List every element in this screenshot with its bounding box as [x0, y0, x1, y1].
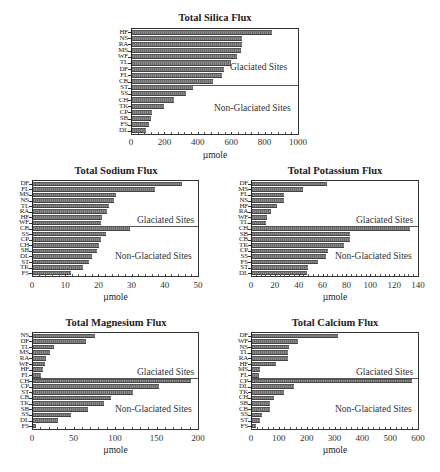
- bar-cp: [252, 379, 412, 384]
- x-tick-label: 20: [270, 280, 279, 290]
- chart-title: Total Potassium Flux: [288, 165, 383, 176]
- x-tick: [245, 132, 246, 134]
- x-tick-label: 1000: [289, 137, 307, 147]
- bar-hf: [132, 30, 272, 35]
- chart-title: Total Magnesium Flux: [65, 317, 166, 328]
- bar-fl: [132, 73, 222, 78]
- y-tick: [29, 341, 32, 342]
- y-tick: [29, 217, 32, 218]
- x-tick: [181, 427, 182, 429]
- x-tick: [262, 427, 263, 429]
- bar-tk: [33, 401, 104, 406]
- y-tick: [248, 341, 251, 342]
- bar-ms: [33, 193, 116, 198]
- y-tick: [128, 106, 131, 107]
- x-axis-label: µmole: [103, 445, 127, 455]
- y-tick: [128, 57, 131, 58]
- bar-fl: [33, 373, 41, 378]
- bar-ss: [132, 91, 186, 96]
- x-tick: [362, 427, 363, 430]
- x-tick-label: 80: [342, 280, 351, 290]
- bar-cp: [33, 384, 159, 389]
- bar-ch: [132, 97, 174, 102]
- x-tick: [59, 274, 60, 276]
- x-tick: [407, 427, 408, 429]
- x-tick: [408, 274, 409, 276]
- y-tick: [29, 347, 32, 348]
- x-tick-label: 0: [129, 137, 134, 147]
- bar-ra: [33, 356, 46, 361]
- y-tick: [29, 364, 32, 365]
- x-tick-label: 0: [249, 433, 254, 443]
- x-tick: [284, 427, 285, 429]
- x-tick: [366, 274, 367, 276]
- bar-cp: [33, 237, 101, 242]
- x-tick: [151, 132, 152, 134]
- x-tick: [258, 132, 259, 134]
- x-tick-label: 150: [150, 433, 164, 443]
- x-tick: [184, 132, 185, 134]
- x-tick: [158, 274, 159, 276]
- y-tick: [128, 88, 131, 89]
- x-tick: [270, 274, 271, 276]
- category-label: DL: [226, 270, 248, 277]
- y-tick: [29, 421, 32, 422]
- plot-area: [32, 180, 199, 277]
- y-tick: [248, 229, 251, 230]
- x-tick: [401, 427, 402, 429]
- group-divider: [252, 226, 418, 227]
- x-tick: [125, 274, 126, 276]
- x-tick: [261, 274, 262, 276]
- x-tick: [285, 132, 286, 134]
- region-label-glaciated: Glaciated Sites: [356, 215, 413, 225]
- x-tick: [275, 274, 276, 277]
- bar-cb: [33, 226, 130, 231]
- x-tick: [144, 132, 145, 134]
- y-tick: [128, 82, 131, 83]
- y-tick: [29, 212, 32, 213]
- y-tick: [248, 387, 251, 388]
- x-tick-label: 120: [387, 280, 401, 290]
- y-tick: [29, 387, 32, 388]
- y-tick: [29, 201, 32, 202]
- bar-fs: [252, 260, 318, 265]
- x-tick: [399, 274, 400, 276]
- bar-dl: [252, 384, 294, 389]
- y-tick: [248, 353, 251, 354]
- x-tick: [204, 132, 205, 134]
- x-tick: [294, 274, 295, 276]
- x-tick-label: 10: [61, 280, 70, 290]
- bar-cb: [252, 237, 350, 242]
- y-tick: [29, 415, 32, 416]
- y-tick: [248, 262, 251, 263]
- y-tick: [29, 375, 32, 376]
- x-tick: [404, 274, 405, 276]
- x-tick-label: 100: [364, 280, 378, 290]
- x-tick: [280, 274, 281, 276]
- x-tick: [357, 427, 358, 429]
- y-tick: [29, 262, 32, 263]
- group-divider: [33, 378, 198, 379]
- x-tick-label: 800: [258, 137, 272, 147]
- bar-ms: [252, 187, 303, 192]
- x-tick: [327, 274, 328, 276]
- x-tick: [351, 427, 352, 429]
- y-tick: [29, 251, 32, 252]
- group-divider: [252, 378, 418, 379]
- x-tick: [98, 427, 99, 429]
- bar-st: [252, 418, 260, 423]
- y-tick: [248, 370, 251, 371]
- region-label-non-glaciated: Non-Glaciated Sites: [214, 103, 291, 113]
- x-tick: [318, 427, 319, 429]
- x-tick: [346, 274, 347, 277]
- x-tick: [45, 274, 46, 276]
- y-tick: [248, 212, 251, 213]
- x-tick-label: 0: [30, 433, 35, 443]
- y-tick: [248, 404, 251, 405]
- x-tick: [257, 427, 258, 429]
- x-tick: [296, 427, 297, 429]
- region-label-non-glaciated: Non-Glaciated Sites: [115, 404, 192, 414]
- bar-fl: [33, 187, 155, 192]
- bar-hf: [252, 362, 276, 367]
- bar-tk: [132, 104, 164, 109]
